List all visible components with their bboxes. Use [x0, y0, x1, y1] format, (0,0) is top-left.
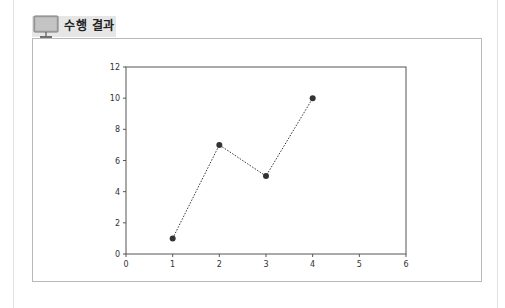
plot-area	[126, 67, 406, 254]
x-tick-label: 0	[123, 260, 128, 269]
y-tick-label: 10	[110, 94, 120, 103]
y-tick-label: 4	[115, 188, 120, 197]
data-point	[263, 173, 269, 179]
x-tick-label: 1	[170, 260, 175, 269]
y-tick-label: 2	[115, 219, 120, 228]
x-tick-label: 4	[310, 260, 315, 269]
y-tick-label: 6	[115, 157, 120, 166]
x-tick-label: 6	[403, 260, 408, 269]
y-tick-label: 12	[110, 63, 120, 72]
line-chart: 0123456024681012	[0, 0, 505, 308]
data-point	[310, 95, 316, 101]
data-point	[170, 235, 176, 241]
y-tick-label: 8	[115, 125, 120, 134]
y-tick-label: 0	[115, 250, 120, 259]
x-tick-label: 5	[357, 260, 362, 269]
x-tick-label: 2	[217, 260, 222, 269]
data-line	[173, 98, 313, 238]
data-point	[216, 142, 222, 148]
x-tick-label: 3	[263, 260, 268, 269]
